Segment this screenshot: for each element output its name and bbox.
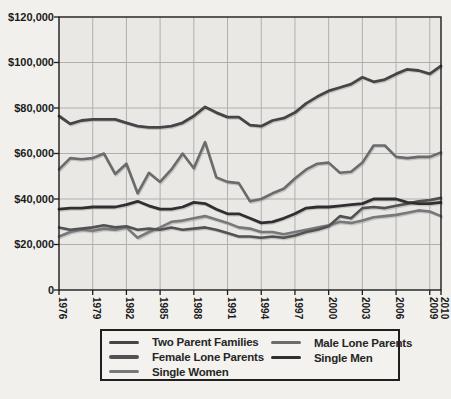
legend-label-single-men: Single Men	[314, 352, 373, 364]
x-axis-label: 1976	[57, 297, 68, 320]
income-line-chart: $120,000$100,000$80,000$60,000$40,000$20…	[0, 0, 451, 326]
legend-item-female-lone-parents: Female Lone Parents	[102, 350, 264, 365]
legend-item-single-women: Single Women	[102, 364, 264, 379]
chart-legend: Two Parent FamiliesFemale Lone ParentsSi…	[100, 329, 400, 381]
x-axis-label: 1997	[293, 297, 304, 320]
legend-label-single-women: Single Women	[152, 366, 229, 378]
legend-label-female-lone-parents: Female Lone Parents	[152, 351, 264, 363]
legend-label-male-lone-parents: Male Lone Parents	[314, 337, 412, 349]
y-axis-label: $20,000	[14, 238, 54, 250]
y-axis-label: $60,000	[14, 147, 54, 159]
legend-column-2: Male Lone ParentsSingle Men	[264, 335, 412, 379]
legend-column-1: Two Parent FamiliesFemale Lone ParentsSi…	[102, 335, 264, 379]
x-axis-label: 1991	[226, 297, 237, 320]
y-axis-label: $120,000	[8, 11, 54, 23]
x-axis-label: 2000	[327, 297, 338, 320]
x-axis-label: 1985	[158, 297, 169, 320]
x-axis-label: 1994	[259, 297, 270, 320]
x-axis-label: 2009	[428, 297, 439, 320]
x-axis-label: 2010	[439, 297, 450, 320]
legend-item-male-lone-parents: Male Lone Parents	[264, 335, 412, 350]
y-axis-label: 0	[48, 284, 54, 296]
legend-item-two-parent-families: Two Parent Families	[102, 335, 264, 350]
legend-swatch-female-lone-parents	[109, 355, 139, 359]
legend-label-two-parent-families: Two Parent Families	[152, 336, 259, 348]
legend-swatch-two-parent-families	[109, 341, 139, 345]
legend-swatch-male-lone-parents	[271, 341, 301, 345]
legend-swatch-single-women	[109, 370, 139, 374]
x-axis-label: 2003	[360, 297, 371, 320]
legend-item-single-men: Single Men	[264, 350, 412, 365]
x-axis-label: 1982	[124, 297, 135, 320]
y-axis-label: $100,000	[8, 56, 54, 68]
y-axis-label: $40,000	[14, 193, 54, 205]
book-page: $120,000$100,000$80,000$60,000$40,000$20…	[0, 0, 451, 399]
x-axis-label: 1988	[192, 297, 203, 320]
x-axis-label: 2006	[394, 297, 405, 320]
y-axis-label: $80,000	[14, 102, 54, 114]
legend-swatch-single-men	[271, 356, 301, 360]
x-axis-label: 1979	[91, 297, 102, 320]
